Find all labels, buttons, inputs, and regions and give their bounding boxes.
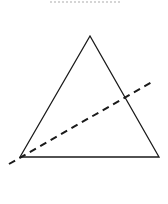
triangle [20,36,159,157]
dashed-line [9,82,152,164]
diagram-canvas [0,0,168,204]
